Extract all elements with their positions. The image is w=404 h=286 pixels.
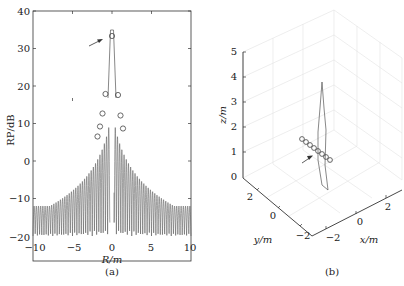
panel-b: 5 4 3 2 1 0 2 0 −2 −2 0 2 z/m y/m x/m (b…	[217, 10, 402, 277]
x-axis-label: R/m	[101, 254, 122, 265]
y-axis-label: RP/dB	[5, 114, 16, 145]
marker	[95, 134, 100, 139]
z-axis-label: z/m	[217, 106, 228, 125]
ztick-label: 3	[231, 96, 237, 107]
ytick-label: −2	[296, 230, 311, 241]
ytick-label: 2	[247, 191, 253, 202]
ztick-label: 2	[231, 121, 237, 132]
ytick-label: 20	[17, 81, 30, 92]
xtick-label: 0	[109, 242, 115, 253]
panel-a: 40 30 20 10 0 −10 −20 −10 −5 0 5 10 R/m …	[5, 6, 196, 278]
marker-group	[95, 33, 126, 139]
ytick-label: 40	[17, 6, 30, 17]
figure: 40 30 20 10 0 −10 −20 −10 −5 0 5 10 R/m …	[0, 0, 404, 286]
xtick-label: 0	[357, 216, 363, 227]
ztick-label: 5	[231, 46, 237, 57]
xtick-label: −10	[24, 242, 45, 253]
xtick-label: 10	[184, 242, 197, 253]
ztick-label: 0	[231, 171, 237, 182]
marker	[118, 113, 123, 118]
xtick-label: −5	[67, 242, 82, 253]
marker	[103, 91, 108, 96]
ytick-label: −10	[9, 193, 30, 204]
xtick-label: 2	[385, 201, 391, 212]
array-elements	[300, 137, 333, 163]
ytick-label: 30	[17, 43, 30, 54]
ztick-label: 4	[231, 71, 237, 82]
arrow-icon	[89, 39, 103, 46]
ytick-label: 10	[17, 118, 30, 129]
ytick-label: 0	[24, 156, 30, 167]
panel-label-b: (b)	[325, 266, 339, 277]
marker	[100, 111, 105, 116]
x-axis-label: x/m	[360, 234, 379, 245]
y-axis-label: y/m	[253, 234, 273, 245]
xtick-label: −2	[326, 232, 341, 243]
marker	[120, 126, 125, 131]
xtick-label: 5	[148, 242, 154, 253]
arrow-icon	[302, 156, 313, 164]
marker	[97, 124, 102, 129]
panel-label-a: (a)	[105, 266, 119, 277]
ytick-label: 0	[270, 210, 276, 221]
ztick-label: 1	[231, 146, 237, 157]
radiation-pattern-line	[33, 128, 191, 236]
main-lobe-line	[108, 30, 116, 98]
axes-3d	[243, 52, 402, 236]
